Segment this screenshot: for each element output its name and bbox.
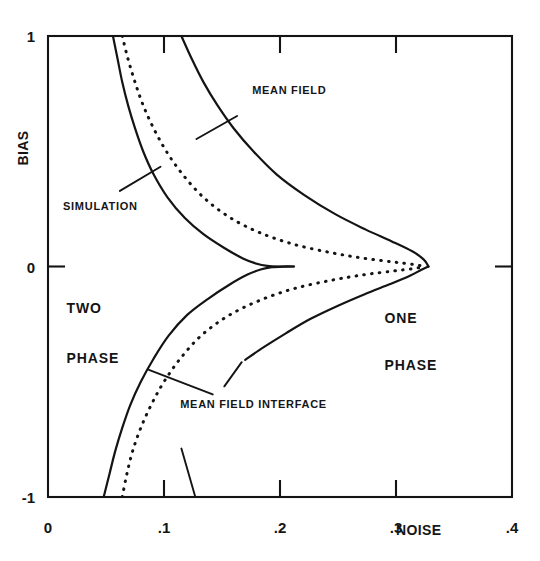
annotation-label-simulation: SIMULATION bbox=[63, 200, 138, 212]
x-axis-title: NOISE bbox=[396, 522, 442, 538]
y-tick-label: 1 bbox=[27, 28, 35, 45]
y-tick-label: 0 bbox=[27, 259, 35, 276]
phase-diagram-figure: MEAN FIELDSIMULATIONMEAN FIELD INTERFACE… bbox=[0, 0, 540, 561]
y-tick-label: -1 bbox=[22, 489, 35, 506]
annotation-label-mean-field: MEAN FIELD bbox=[252, 84, 326, 96]
region-label: PHASE bbox=[384, 357, 437, 373]
x-tick-label: .4 bbox=[506, 519, 519, 536]
annotation-label-mean-field-interface: MEAN FIELD INTERFACE bbox=[180, 398, 327, 410]
region-label: PHASE bbox=[67, 350, 120, 366]
chart-canvas: MEAN FIELDSIMULATIONMEAN FIELD INTERFACE… bbox=[0, 0, 540, 561]
y-axis-title: BIAS bbox=[15, 130, 31, 165]
x-tick-label: .2 bbox=[274, 519, 287, 536]
region-label: TWO bbox=[67, 300, 102, 316]
region-label: ONE bbox=[384, 310, 417, 326]
x-tick-label: .1 bbox=[158, 519, 171, 536]
x-tick-label: 0 bbox=[44, 519, 52, 536]
